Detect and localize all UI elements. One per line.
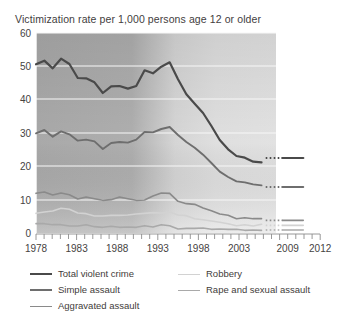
legend-label: Simple assault <box>58 285 120 295</box>
x-tick-label: 1978 <box>25 243 48 254</box>
x-tick-label: 1983 <box>65 243 88 254</box>
x-minor-ticks <box>36 234 320 240</box>
legend-column-right: Robbery Rape and sexual assault <box>178 266 342 298</box>
y-tick-label: 30 <box>20 128 32 139</box>
y-tick-label: 10 <box>20 195 32 206</box>
legend-swatch-icon <box>30 306 52 307</box>
legend-swatch-icon <box>178 274 200 275</box>
legend-item-aggravated-assault[interactable]: Aggravated assault <box>30 298 170 314</box>
y-tick-label: 50 <box>20 61 32 72</box>
legend-label: Aggravated assault <box>58 301 139 311</box>
line-chart-svg: 60 50 40 30 20 10 0 <box>0 0 342 260</box>
x-tick-label: 1988 <box>106 243 129 254</box>
x-tick-label: 1998 <box>187 243 210 254</box>
x-tick-label: 1993 <box>147 243 170 254</box>
chart-figure: Victimization rate per 1,000 persons age… <box>0 0 342 317</box>
legend-swatch-icon <box>30 289 52 291</box>
y-tick-label: 20 <box>20 161 32 172</box>
y-axis: 60 50 40 30 20 10 0 <box>20 28 36 239</box>
legend-label: Total violent crime <box>58 269 134 279</box>
x-tick-label: 2012 <box>309 243 332 254</box>
x-tick-label: 2009 <box>277 243 300 254</box>
y-tick-label: 40 <box>20 94 32 105</box>
y-tick-label: 60 <box>20 28 32 39</box>
legend-swatch-icon <box>178 290 200 291</box>
legend-item-robbery[interactable]: Robbery <box>178 266 342 282</box>
legend-item-total-violent-crime[interactable]: Total violent crime <box>30 266 170 282</box>
legend-label: Robbery <box>206 269 242 279</box>
plot-area: 60 50 40 30 20 10 0 <box>0 0 342 260</box>
legend-item-rape-and-sexual-assault[interactable]: Rape and sexual assault <box>178 282 342 298</box>
x-axis: 1978 1983 1988 1993 1998 2003 2009 2012 <box>25 234 332 254</box>
legend-swatch-icon <box>30 273 52 275</box>
x-tick-label: 2003 <box>228 243 251 254</box>
y-tick-label: 0 <box>25 228 31 239</box>
legend-item-simple-assault[interactable]: Simple assault <box>30 282 170 298</box>
legend-label: Rape and sexual assault <box>206 285 310 295</box>
chart-legend: Total violent crime Simple assault Aggra… <box>30 266 342 314</box>
legend-column-left: Total violent crime Simple assault Aggra… <box>30 266 170 314</box>
